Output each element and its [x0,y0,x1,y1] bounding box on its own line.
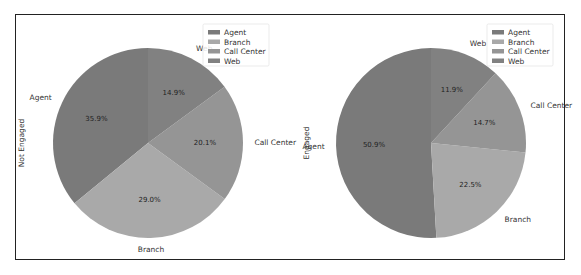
legend-swatch [208,49,220,54]
legend-swatch [492,30,504,35]
pie-not-engaged: 35.9%Agent29.0%Branch20.1%Call Center14.… [30,44,297,254]
legend-label: Branch [508,38,535,47]
legend-swatch [208,30,220,35]
legend-label: Web [224,57,241,66]
slice-category-label: Call Center [531,101,574,110]
legend: AgentBranchCall CenterWeb [203,24,269,66]
slice-category-label: Branch [138,245,165,254]
slice-percent-label: 22.5% [459,181,482,189]
legend-swatch [492,59,504,64]
legend: AgentBranchCall CenterWeb [487,24,553,66]
legend-label: Web [508,57,525,66]
pie-charts: 35.9%Agent29.0%Branch20.1%Call Center14.… [0,0,581,275]
slice-agent [336,48,436,238]
slice-percent-label: 29.0% [138,196,161,204]
y-axis-label: Not Engaged [17,119,26,168]
slice-category-label: Web [470,39,487,48]
slice-category-label: Agent [30,93,52,102]
legend-swatch [208,59,220,64]
slice-percent-label: 20.1% [194,139,217,147]
legend-label: Agent [508,28,530,37]
slice-percent-label: 14.7% [473,119,496,127]
legend-swatch [492,40,504,45]
slice-percent-label: 14.9% [163,89,186,97]
slice-percent-label: 11.9% [441,86,464,94]
pie-engaged: 50.9%Agent22.5%Branch14.7%Call Center11.… [302,39,573,238]
legend-label: Branch [224,38,251,47]
legend-label: Agent [224,28,246,37]
slice-category-label: Branch [505,215,532,224]
slice-category-label: Call Center [254,138,297,147]
legend-label: Call Center [508,47,551,56]
legend-swatch [208,40,220,45]
y-axis-label: Engaged [302,126,311,159]
legend-label: Call Center [224,47,267,56]
legend-swatch [492,49,504,54]
slice-percent-label: 35.9% [85,115,108,123]
slice-percent-label: 50.9% [363,141,386,149]
